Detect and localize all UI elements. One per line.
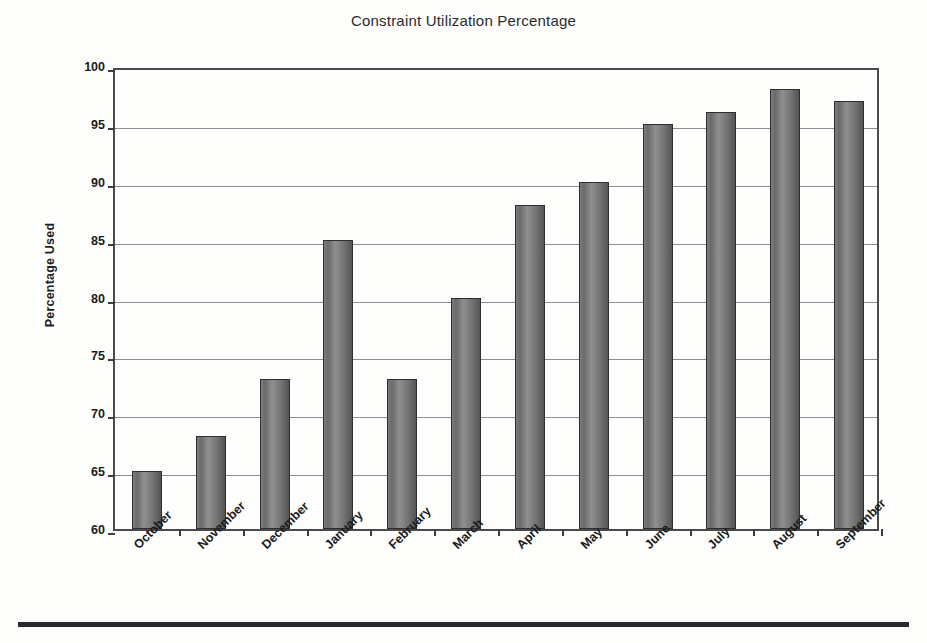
bar bbox=[706, 112, 736, 529]
bar bbox=[770, 89, 800, 529]
y-tick-label: 70 bbox=[61, 407, 105, 421]
y-tick-label: 65 bbox=[61, 465, 105, 479]
bar bbox=[515, 205, 545, 529]
x-tick-mark bbox=[307, 529, 309, 536]
bar-series bbox=[115, 70, 877, 529]
x-tick-mark bbox=[562, 529, 564, 536]
bar bbox=[643, 124, 673, 529]
bar bbox=[451, 298, 481, 530]
y-tick-mark bbox=[108, 70, 115, 72]
y-tick-label: 80 bbox=[61, 292, 105, 306]
x-tick-mark bbox=[498, 529, 500, 536]
y-tick-mark bbox=[108, 475, 115, 477]
bar bbox=[387, 379, 417, 529]
x-axis-tick-labels: OctoberNovemberDecemberJanuaryFebruaryMa… bbox=[113, 542, 879, 622]
bar bbox=[323, 240, 353, 529]
x-tick-mark bbox=[817, 529, 819, 536]
y-axis-title: Percentage Used bbox=[43, 205, 57, 345]
x-tick-mark bbox=[753, 529, 755, 536]
y-tick-mark bbox=[108, 186, 115, 188]
x-tick-mark bbox=[370, 529, 372, 536]
footer-divider bbox=[18, 622, 909, 627]
x-tick-mark bbox=[881, 529, 883, 536]
bar bbox=[834, 101, 864, 529]
plot-area bbox=[113, 68, 879, 531]
x-tick-mark bbox=[179, 529, 181, 536]
y-tick-mark bbox=[108, 244, 115, 246]
x-tick-mark bbox=[243, 529, 245, 536]
page-title: Constraint Utilization Percentage bbox=[0, 12, 927, 29]
y-tick-mark bbox=[108, 417, 115, 419]
y-tick-label: 85 bbox=[61, 234, 105, 248]
y-tick-mark bbox=[108, 533, 115, 535]
y-tick-mark bbox=[108, 359, 115, 361]
chart-page: Constraint Utilization Percentage Percen… bbox=[0, 0, 927, 643]
y-tick-label: 95 bbox=[61, 118, 105, 132]
x-tick-mark bbox=[626, 529, 628, 536]
y-tick-label: 75 bbox=[61, 349, 105, 363]
y-tick-mark bbox=[108, 302, 115, 304]
y-tick-label: 100 bbox=[61, 60, 105, 74]
bar bbox=[579, 182, 609, 529]
x-tick-mark bbox=[434, 529, 436, 536]
y-tick-mark bbox=[108, 128, 115, 130]
x-tick-mark bbox=[690, 529, 692, 536]
bar bbox=[260, 379, 290, 529]
y-tick-label: 60 bbox=[61, 523, 105, 537]
y-tick-label: 90 bbox=[61, 176, 105, 190]
